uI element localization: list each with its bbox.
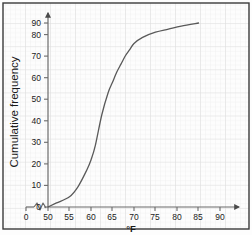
y-tick-label: 10 — [32, 180, 42, 190]
x-tick-label: 70 — [129, 212, 139, 222]
x-tick-label: 60 — [86, 212, 96, 222]
x-tick-label: 55 — [64, 212, 74, 222]
x-axis-label: °F — [126, 223, 136, 234]
y-tick-label: 30 — [32, 137, 42, 147]
x-tick-label: 0 — [24, 212, 29, 222]
x-tick-label: 85 — [193, 212, 203, 222]
y-tick-label: 40 — [32, 116, 42, 126]
chart-canvas: 0 50 55 60 65 70 75 80 85 90 °F 0 — [0, 0, 252, 235]
x-tick-label: 50 — [43, 212, 53, 222]
y-tick-label: 50 — [32, 94, 42, 104]
x-tick-label: 75 — [150, 212, 160, 222]
cumulative-frequency-chart: 0 50 55 60 65 70 75 80 85 90 °F 0 — [0, 0, 252, 235]
x-tick-label: 80 — [172, 212, 182, 222]
y-tick-label: 80 — [32, 30, 42, 40]
x-tick-label: 90 — [215, 212, 225, 222]
y-tick-label: 90 — [32, 18, 42, 28]
y-tick-label: 60 — [32, 73, 42, 83]
y-tick-label: 20 — [32, 159, 42, 169]
x-tick-label: 65 — [107, 212, 117, 222]
y-tick-label: 70 — [32, 51, 42, 61]
y-tick-label: 0 — [36, 202, 41, 212]
y-axis-label: Cumulative frequency — [8, 56, 20, 167]
